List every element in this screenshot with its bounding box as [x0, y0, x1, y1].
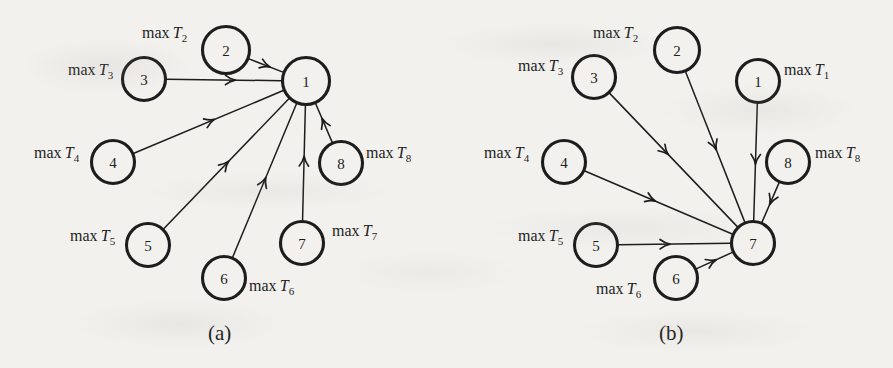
panel-a-label-max-T2: max T2	[142, 25, 187, 44]
panel-b-caption: (b)	[659, 321, 684, 346]
node-1: 1	[283, 58, 330, 105]
panel-b-label-max-T3: max T3	[518, 58, 563, 77]
panel-b-label-max-T1: max T1	[784, 62, 829, 81]
node-2: 2	[655, 28, 700, 73]
panel-a-caption: (a)	[208, 321, 231, 346]
node-8-label: 8	[784, 155, 792, 171]
node-4-label: 4	[109, 155, 117, 171]
node-2-label: 2	[222, 43, 230, 59]
panel-a-label-max-T8: max T8	[366, 145, 411, 164]
panel-a-label-max-T3: max T3	[68, 62, 113, 81]
panel-a-label-max-T6: max T6	[249, 278, 294, 297]
node-3: 3	[573, 56, 616, 99]
panel-b-label-max-T4: max T4	[484, 145, 529, 164]
panel-b-label-max-T5: max T5	[518, 228, 563, 247]
edge-3-to-7	[610, 93, 738, 226]
node-7-label: 7	[298, 236, 306, 252]
node-5: 5	[575, 224, 618, 267]
panel-a: 12345678	[92, 27, 363, 300]
node-3-label: 3	[140, 72, 148, 88]
node-5: 5	[127, 224, 170, 267]
graph-figure-canvas: 1234567812345678	[0, 0, 893, 368]
node-4: 4	[92, 141, 135, 184]
node-2: 2	[203, 27, 250, 74]
panel-a-label-max-T7: max T7	[332, 223, 377, 242]
node-8-label: 8	[337, 156, 345, 172]
node-6-label: 6	[672, 271, 680, 287]
node-1: 1	[737, 60, 780, 103]
panel-b-label-max-T2: max T2	[593, 25, 638, 44]
node-8: 8	[320, 142, 363, 185]
node-5-label: 5	[144, 238, 152, 254]
node-1-label: 1	[754, 74, 762, 90]
edge-7-to-1	[303, 106, 306, 221]
panel-b-label-max-T8: max T8	[815, 145, 860, 164]
edge-4-to-1	[134, 91, 283, 154]
node-6: 6	[655, 257, 698, 300]
node-6: 6	[203, 257, 246, 300]
panel-b-label-max-T6: max T6	[596, 281, 641, 300]
node-3: 3	[123, 58, 166, 101]
node-7-label: 7	[749, 236, 757, 252]
edge-4-to-7	[585, 171, 732, 234]
node-6-label: 6	[220, 271, 228, 287]
panel-a-label-max-T5: max T5	[70, 228, 115, 247]
node-3-label: 3	[590, 70, 598, 86]
edge-3-to-1	[167, 79, 282, 80]
node-1-label: 1	[302, 74, 310, 90]
node-8: 8	[767, 141, 810, 184]
edge-5-to-1	[164, 99, 289, 229]
node-2-label: 2	[673, 43, 681, 59]
node-7: 7	[732, 222, 775, 265]
edge-2-to-1	[249, 59, 283, 72]
node-7: 7	[281, 222, 324, 265]
node-4-label: 4	[560, 155, 568, 171]
panel-a-label-max-T4: max T4	[34, 145, 79, 164]
edge-5-to-7	[619, 243, 731, 244]
panel-b: 12345678	[543, 28, 810, 300]
node-5-label: 5	[592, 238, 600, 254]
edge-8-to-1	[316, 104, 332, 142]
node-4: 4	[543, 141, 586, 184]
